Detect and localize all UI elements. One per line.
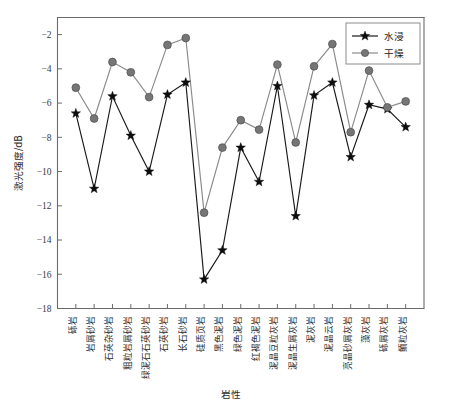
- y-tick-label: −14: [37, 235, 52, 245]
- x-tick-label: 长石砂岩: [177, 316, 188, 352]
- data-point: [89, 184, 99, 193]
- chart-canvas: −2−4−6−8−10−12−14−16−18 砾岩岩屑砂岩石英杂砂岩粗粒岩屑砂…: [0, 0, 452, 412]
- y-axis-title: 激光强度/dB: [13, 135, 24, 191]
- data-point: [402, 97, 410, 105]
- y-tick-label: −12: [37, 201, 52, 211]
- x-tick-label: 砾屑灰岩: [378, 316, 389, 352]
- data-point: [163, 90, 173, 99]
- data-point: [199, 274, 209, 283]
- data-point: [219, 144, 227, 152]
- x-axis-ticks: [76, 304, 406, 309]
- data-point: [237, 116, 245, 124]
- x-tick-label: 泥晶云岩: [323, 316, 334, 352]
- data-point: [127, 68, 135, 76]
- data-point: [145, 93, 153, 101]
- data-point: [126, 131, 136, 140]
- legend: 水浸 干燥: [346, 23, 420, 64]
- x-tick-label: 粗粒岩屑砂岩: [122, 316, 133, 370]
- legend-background: [346, 23, 420, 64]
- series-markers-water-immersed: [71, 78, 410, 284]
- x-axis-tick-labels: 砾岩岩屑砂岩石英杂砂岩粗粒岩屑砂岩绿泥石石英砂岩石英砂岩长石砂岩硅质页岩黑色泥岩…: [67, 316, 408, 379]
- x-tick-label: 泥晶豆粒灰岩: [268, 316, 279, 370]
- data-point: [347, 128, 355, 136]
- y-tick-label: −18: [37, 304, 52, 314]
- data-point: [218, 245, 228, 254]
- x-tick-label: 藻灰岩: [360, 316, 371, 343]
- y-tick-label: −2: [41, 30, 51, 40]
- x-tick-label: 鲕粒灰岩: [397, 316, 408, 352]
- data-point: [90, 115, 98, 123]
- x-tick-label: 岩屑砂岩: [85, 316, 96, 352]
- x-tick-label: 石英杂砂岩: [103, 316, 114, 361]
- data-point: [144, 167, 154, 176]
- y-axis-ticks: −2−4−6−8−10−12−14−16−18: [37, 30, 62, 314]
- laser-intensity-lithology-chart: −2−4−6−8−10−12−14−16−18 砾岩岩屑砂岩石英杂砂岩粗粒岩屑砂…: [0, 0, 452, 412]
- data-point: [365, 67, 373, 75]
- circle-icon: [361, 49, 368, 56]
- x-tick-label: 石英砂岩: [158, 316, 169, 352]
- data-point: [255, 126, 263, 134]
- data-point: [383, 103, 391, 111]
- data-point: [346, 152, 356, 161]
- x-tick-label: 泥晶生屑灰岩: [287, 316, 298, 370]
- data-point: [274, 61, 282, 69]
- x-tick-label: 红褐色泥岩: [250, 316, 261, 361]
- data-point: [71, 108, 81, 117]
- series-layer: [71, 34, 410, 283]
- x-tick-label: 黑色泥岩: [213, 316, 224, 352]
- data-point: [164, 41, 172, 49]
- data-point: [182, 34, 190, 42]
- x-tick-label: 绿色泥岩: [232, 316, 243, 352]
- data-point: [310, 62, 318, 70]
- x-tick-label: 亮晶砂屑灰岩: [342, 316, 353, 370]
- data-point: [364, 100, 374, 109]
- data-point: [328, 40, 336, 48]
- x-tick-label: 绿泥石石英砂岩: [140, 316, 151, 379]
- x-tick-label: 砾岩: [67, 316, 78, 334]
- x-tick-label: 硅质页岩: [195, 316, 206, 352]
- x-axis-title: 岩性: [221, 389, 241, 400]
- y-tick-label: −6: [41, 98, 51, 108]
- y-tick-label: −10: [37, 167, 52, 177]
- data-point: [72, 84, 80, 92]
- legend-label-a: 水浸: [384, 31, 404, 42]
- y-tick-label: −16: [37, 270, 52, 280]
- data-point: [292, 139, 300, 147]
- legend-label-b: 干燥: [384, 48, 404, 59]
- data-point: [200, 209, 208, 217]
- data-point: [291, 211, 301, 220]
- x-tick-label: 泥灰岩: [305, 316, 316, 343]
- data-point: [254, 177, 264, 186]
- y-tick-label: −4: [41, 64, 51, 74]
- y-tick-label: −8: [41, 133, 51, 143]
- data-point: [109, 58, 117, 66]
